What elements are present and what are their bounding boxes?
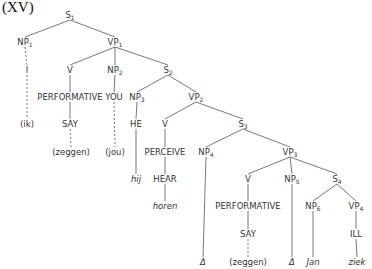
tree-node-he: HE: [130, 119, 142, 129]
tree-node-you: YOU: [104, 92, 123, 102]
tree-node-horen: horen: [153, 201, 178, 211]
tree-edge-S2-NP3: [137, 75, 168, 92]
tree-edge-VP1-V1: [70, 47, 115, 65]
tree-node-zeggen2: (zeggen): [229, 257, 267, 267]
tree-edge-ILL-ziek: [356, 239, 357, 257]
syntax-tree-diagram: S1NP1VP1IVNP2S2PERFORMATIVEYOUNP3VP2(ik)…: [0, 0, 372, 269]
tree-edge-NP4-delta1: [203, 157, 206, 257]
tree-node-hear: HEAR: [153, 174, 177, 184]
tree-node-np2: NP2: [107, 65, 122, 76]
tree-node-np5: NP5: [284, 174, 299, 185]
tree-edge-S3-VP3: [243, 129, 290, 147]
tree-node-np1: NP1: [17, 37, 32, 48]
tree-node-ziek: ziek: [348, 257, 367, 267]
tree-edge-SAY1-zeggen1: [70, 129, 71, 147]
tree-edge-S4-NP6: [313, 184, 337, 201]
tree-edge-S4-VP4: [337, 184, 356, 201]
tree-node-delta2: Δ: [288, 257, 295, 267]
tree-edge-S3-NP4: [206, 129, 243, 147]
tree-node-s1: S1: [65, 10, 74, 21]
tree-node-vp2: VP2: [189, 92, 204, 103]
tree-node-jan: Jan: [304, 257, 319, 267]
tree-node-perf1: PERFORMATIVE: [37, 92, 102, 102]
tree-node-v2: V: [162, 119, 168, 129]
tree-edge-VP3-S4: [290, 157, 337, 174]
tree-node-np3: NP3: [129, 92, 144, 103]
tree-edge-S2-VP2: [168, 75, 196, 92]
tree-node-delta1: Δ: [199, 257, 206, 267]
tree-edge-VP1-S2: [115, 47, 168, 65]
tree-node-jou: (jou): [105, 147, 125, 157]
tree-node-say1: SAY: [62, 119, 79, 129]
tree-node-perf2: PERFORMATIVE: [215, 201, 280, 211]
tree-edge-S1-VP1: [70, 20, 115, 37]
tree-edge-VP3-NP5: [290, 157, 292, 174]
tree-nodes: S1NP1VP1IVNP2S2PERFORMATIVEYOUNP3VP2(ik)…: [17, 10, 366, 267]
tree-node-perceive: PERCEIVE: [145, 147, 186, 157]
tree-node-zeggen1: (zeggen): [52, 147, 90, 157]
tree-edge-VP3-V3: [248, 157, 290, 174]
tree-edge-VP2-S3: [196, 102, 243, 119]
tree-edge-NP1-I: [25, 47, 27, 65]
tree-edge-NP3-HE: [136, 102, 137, 119]
tree-node-v3: V: [245, 174, 251, 184]
tree-node-ik: (ik): [20, 119, 34, 129]
tree-edge-NP2-YOU: [114, 75, 115, 92]
tree-node-s4: S4: [332, 174, 341, 185]
tree-node-i: I: [26, 65, 29, 75]
tree-node-hij: hij: [131, 174, 142, 184]
tree-node-say2: SAY: [240, 229, 257, 239]
tree-node-vp1: VP1: [108, 37, 123, 48]
tree-node-s3: S3: [238, 119, 247, 130]
tree-node-vp4: VP4: [349, 201, 364, 212]
tree-node-s2: S2: [163, 65, 172, 76]
tree-edge-VP2-V2: [165, 102, 196, 119]
tree-edge-YOU-jou: [114, 102, 115, 147]
tree-node-np4: NP4: [198, 147, 213, 158]
tree-edge-S1-NP1: [25, 20, 70, 37]
tree-edges: [25, 20, 357, 257]
tree-node-ill: ILL: [350, 229, 362, 239]
tree-node-v1: V: [67, 65, 73, 75]
tree-node-np6: NP6: [305, 201, 320, 212]
tree-node-vp3: VP3: [283, 147, 298, 158]
